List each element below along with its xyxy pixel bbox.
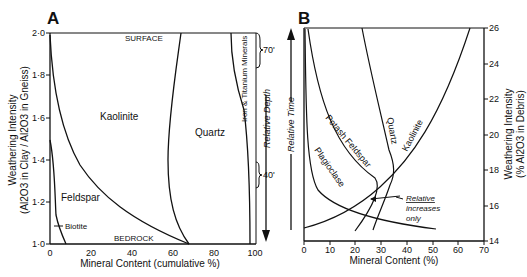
svg-text:60: 60 [168, 248, 178, 258]
svg-text:60: 60 [453, 245, 463, 255]
svg-text:1·4: 1·4 [32, 155, 45, 165]
iron-titanium-label: Iron & Titanium Minerals [240, 36, 249, 122]
svg-text:Relative Depth: Relative Depth [262, 89, 272, 148]
svg-text:22: 22 [489, 94, 499, 104]
svg-text:70: 70 [479, 245, 489, 255]
arrow-head-down-icon [262, 230, 270, 242]
svg-text:1·6: 1·6 [32, 113, 45, 123]
svg-text:40: 40 [402, 245, 412, 255]
svg-text:18: 18 [489, 165, 499, 175]
a-y-label: Weathering Intensity (Al2O3 in Clay / Al… [7, 66, 30, 214]
quartz-region-label: Quartz [195, 127, 225, 138]
svg-text:14: 14 [489, 236, 499, 246]
bedrock-label: BEDROCK [114, 234, 154, 243]
relative-depth-label: Relative Depth [262, 89, 272, 148]
svg-text:100: 100 [247, 248, 262, 258]
feldspar-region-label: Feldspar [61, 192, 101, 203]
svg-text:1·0: 1·0 [32, 239, 45, 249]
svg-text:20: 20 [350, 245, 360, 255]
surface-label: SURFACE [125, 34, 163, 43]
plagioclase-label: Plagioclase [312, 145, 347, 188]
bracket-40ft [256, 162, 262, 188]
svg-text:2·0: 2·0 [32, 28, 45, 38]
panel-b: B 0 10 20 30 40 50 60 70 Mineral Content… [285, 9, 526, 266]
svg-text:Kaolinite: Kaolinite [400, 118, 425, 153]
kaolinite-region-label: Kaolinite [100, 111, 139, 122]
svg-text:26: 26 [489, 23, 499, 33]
svg-text:80: 80 [209, 248, 219, 258]
svg-text:1·2: 1·2 [32, 197, 45, 207]
svg-text:0: 0 [47, 248, 52, 258]
kaolinite-boundary [168, 33, 189, 244]
a-x-ticks: 0 20 40 60 80 100 [47, 248, 262, 258]
annotation-text: Relative [406, 194, 435, 203]
kaolinite-label: Kaolinite [400, 118, 425, 153]
arrow-head-up-icon [287, 28, 295, 40]
svg-text:0: 0 [301, 245, 306, 255]
a-x-label: Mineral Content (cumulative %) [80, 258, 220, 269]
svg-text:1·8: 1·8 [32, 70, 45, 80]
svg-text:50: 50 [428, 245, 438, 255]
svg-text:40: 40 [127, 248, 137, 258]
svg-text:(% Al2O3 in Debris): (% Al2O3 in Debris) [515, 90, 526, 178]
annotation-text-line: only [406, 214, 422, 223]
bracket-70ft-label: 70' [263, 45, 275, 55]
svg-text:20: 20 [489, 130, 499, 140]
svg-text:Iron & Titanium Minerals: Iron & Titanium Minerals [240, 36, 249, 122]
svg-text:Plagioclase: Plagioclase [312, 145, 347, 188]
panel-a: A 1·0 1·2 1·4 1·6 1·8 2·0 0 20 40 60 80 … [7, 9, 275, 269]
biotite-label: Biotite [65, 222, 88, 231]
b-x-ticks: 0 10 20 30 40 50 60 70 [301, 241, 489, 255]
b-x-label: Mineral Content (%) [350, 255, 439, 266]
a-y-ticks: 1·0 1·2 1·4 1·6 1·8 2·0 [32, 28, 50, 249]
svg-text:20: 20 [86, 248, 96, 258]
relative-time-label: Relative Time [285, 97, 297, 154]
svg-text:Weathering Intensity: Weathering Intensity [7, 95, 18, 186]
b-y-label: Weathering Intensity (% Al2O3 in Debris) [503, 89, 526, 180]
annotation-pointer-2 [396, 197, 403, 199]
svg-text:(Al2O3 in Clay / Al2O3 in Gnei: (Al2O3 in Clay / Al2O3 in Gneiss) [19, 66, 30, 214]
svg-text:Weathering Intensity: Weathering Intensity [503, 89, 514, 180]
figure: A 1·0 1·2 1·4 1·6 1·8 2·0 0 20 40 60 80 … [0, 0, 527, 277]
bracket-70ft [256, 33, 263, 68]
annotation-text-line: increases [406, 204, 440, 213]
svg-text:10: 10 [325, 245, 335, 255]
panel-a-title: A [47, 9, 59, 28]
panel-b-title: B [298, 9, 310, 28]
b-y-ticks: 14 16 18 20 22 24 26 [484, 23, 499, 246]
svg-text:24: 24 [489, 59, 499, 69]
svg-text:30: 30 [376, 245, 386, 255]
svg-text:16: 16 [489, 201, 499, 211]
svg-text:Relative Time: Relative Time [286, 97, 296, 152]
bracket-40ft-label: 40' [263, 170, 275, 180]
